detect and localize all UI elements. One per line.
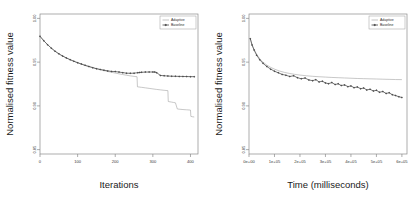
left-marker-baseline <box>133 72 135 74</box>
left-y-ticks: 0.850.900.951.00 <box>32 14 41 154</box>
left-plot-svg: 0100200300400 0.850.900.951.00 AdaptiveB… <box>0 0 209 201</box>
left-marker-baseline <box>122 72 124 74</box>
left-xtick-label-0: 0 <box>39 159 42 164</box>
right-series-baseline <box>250 39 402 98</box>
right-xtick-label-5: 5e+05 <box>370 159 382 164</box>
left-ytick-label-0: 0.85 <box>32 145 37 154</box>
left-series-adaptive <box>40 36 194 117</box>
left-x-ticks: 0100200300400 <box>39 154 195 164</box>
left-marker-baseline <box>141 71 143 73</box>
right-legend-label-adaptive: Adaptive <box>380 18 394 22</box>
right-marker-baseline <box>288 75 290 77</box>
left-marker-baseline <box>114 71 116 73</box>
left-xtick-label-3: 300 <box>149 159 157 164</box>
left-marker-baseline <box>137 72 139 74</box>
left-marker-baseline <box>95 68 97 70</box>
left-yaxis-title: Normalised fitness value <box>4 32 15 136</box>
right-marker-baseline <box>400 96 402 98</box>
left-series-layer <box>39 35 195 117</box>
right-marker-baseline <box>249 38 251 40</box>
left-marker-baseline <box>139 71 141 73</box>
right-xtick-label-2: 2e+05 <box>294 159 306 164</box>
right-marker-baseline <box>277 72 279 74</box>
right-xtick-label-1: 1e+05 <box>268 159 280 164</box>
left-marker-baseline <box>163 75 165 77</box>
right-marker-baseline <box>281 73 283 75</box>
right-marker-baseline <box>327 83 329 85</box>
right-ytick-label-1: 0.90 <box>240 101 245 110</box>
left-marker-baseline <box>80 63 82 65</box>
right-marker-baseline <box>284 74 286 76</box>
left-marker-baseline <box>126 72 128 74</box>
left-marker-baseline <box>84 64 86 66</box>
right-ytick-label-3: 1.00 <box>240 14 245 23</box>
right-yaxis-title: Normalised fitness value <box>213 32 224 136</box>
chart-panel-left: 0100200300400 0.850.900.951.00 AdaptiveB… <box>0 0 209 201</box>
right-marker-baseline <box>300 78 302 80</box>
right-xtick-label-0: 0e+00 <box>243 159 255 164</box>
left-marker-baseline <box>167 75 169 77</box>
left-marker-baseline <box>154 71 156 73</box>
left-marker-baseline <box>178 75 180 77</box>
left-marker-baseline <box>186 76 188 78</box>
right-y-ticks: 0.850.900.951.00 <box>240 14 249 154</box>
figure-two-panel-line-charts: 0100200300400 0.850.900.951.00 AdaptiveB… <box>0 0 417 201</box>
chart-panel-right: 0e+001e+052e+053e+054e+055e+056e+05 0.85… <box>209 0 417 201</box>
left-marker-baseline <box>171 75 173 77</box>
right-plot-svg: 0e+001e+052e+053e+054e+055e+056e+05 0.85… <box>209 0 417 201</box>
left-marker-baseline <box>174 75 176 77</box>
left-marker-baseline <box>182 75 184 77</box>
left-marker-baseline <box>193 76 195 78</box>
left-xtick-label-4: 400 <box>187 159 195 164</box>
left-marker-baseline <box>144 71 146 73</box>
left-xtick-label-2: 200 <box>112 159 120 164</box>
left-ytick-label-2: 0.95 <box>32 57 37 66</box>
left-marker-baseline <box>189 76 191 78</box>
left-marker-baseline <box>88 66 90 68</box>
left-marker-baseline <box>118 71 120 73</box>
left-marker-baseline <box>129 72 131 74</box>
left-ytick-label-1: 0.90 <box>32 101 37 110</box>
right-marker-baseline <box>397 96 399 98</box>
left-marker-baseline <box>152 71 154 73</box>
left-marker-baseline <box>92 67 94 69</box>
right-series-layer <box>249 38 403 99</box>
right-ytick-label-0: 0.85 <box>240 145 245 154</box>
left-marker-baseline <box>148 71 150 73</box>
right-xtick-label-4: 4e+05 <box>345 159 357 164</box>
left-plot-frame <box>40 14 198 154</box>
right-series-adaptive <box>250 39 402 80</box>
right-legend[interactable]: AdaptiveBaseline <box>369 16 405 29</box>
left-series-baseline <box>40 36 194 76</box>
left-marker-baseline <box>99 68 101 70</box>
right-ytick-label-2: 0.95 <box>240 57 245 66</box>
left-legend-label-adaptive: Adaptive <box>171 18 185 22</box>
right-xtick-label-3: 3e+05 <box>319 159 331 164</box>
left-xaxis-title: Iterations <box>99 179 138 190</box>
right-xaxis-title: Time (milliseconds) <box>287 179 368 190</box>
left-xtick-label-1: 100 <box>74 159 82 164</box>
left-legend-label-baseline: Baseline <box>171 23 184 27</box>
right-marker-baseline <box>311 80 313 82</box>
left-ytick-label-3: 1.00 <box>32 14 37 23</box>
left-marker-baseline <box>77 62 79 64</box>
right-marker-baseline <box>394 95 396 97</box>
right-x-ticks: 0e+001e+052e+053e+054e+055e+056e+05 <box>243 154 408 164</box>
left-legend[interactable]: AdaptiveBaseline <box>160 16 196 29</box>
right-legend-label-baseline: Baseline <box>380 23 393 27</box>
right-xtick-label-6: 6e+05 <box>396 159 408 164</box>
